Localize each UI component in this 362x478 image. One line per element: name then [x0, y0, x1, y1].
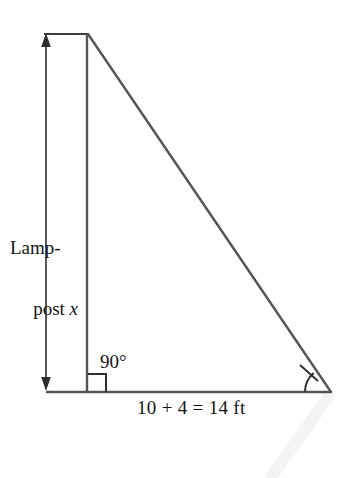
- triangle-side-hypotenuse: [88, 34, 331, 392]
- lamppost-label-line2: post x: [8, 299, 82, 319]
- base-length-label: 10 + 4 = 14 ft: [137, 398, 246, 418]
- lamppost-label-prefix: post: [33, 298, 69, 319]
- right-angle-square-marker: [88, 374, 106, 392]
- right-angle-label: 90°: [100, 352, 127, 372]
- figure-root: Lamp- post x 90° 10 + 4 = 14 ft: [0, 0, 362, 478]
- lamppost-label-line1: Lamp-: [8, 238, 82, 258]
- lamppost-height-label: Lamp- post x: [8, 198, 82, 359]
- triangle-outline: [46, 34, 332, 392]
- lamppost-variable-x: x: [70, 298, 78, 319]
- scan-artifact-streak: [270, 396, 330, 476]
